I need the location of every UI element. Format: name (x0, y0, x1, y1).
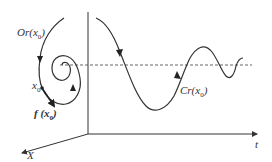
vector-field-label-text: f (x (34, 107, 50, 119)
orbit-direction-arrow-icon (70, 84, 76, 91)
orbit-label: Or(x0) (17, 27, 45, 41)
x0-label: x0 (32, 80, 40, 94)
state-axis-label: X (27, 150, 34, 161)
vector-field-label: f (x0) (34, 108, 57, 122)
diagram-canvas (0, 0, 272, 162)
orbit-label-close: ) (41, 26, 45, 38)
orbit-label-text: Or(x (17, 26, 38, 38)
curve-label: Cr(x0) (180, 85, 207, 99)
curve-label-text: Cr(x (180, 84, 200, 96)
time-axis-label: t (255, 139, 258, 150)
orbit-curve (39, 18, 80, 104)
curve-direction-arrow-icon (174, 71, 181, 79)
curve-label-close: ) (204, 84, 208, 96)
x0-label-sub: 0 (37, 86, 41, 94)
vector-field-label-close: ) (53, 107, 57, 119)
time-series-curve (96, 18, 243, 110)
orbit-direction-arrow-icon (37, 56, 43, 63)
vector-field-arrow (42, 88, 54, 106)
